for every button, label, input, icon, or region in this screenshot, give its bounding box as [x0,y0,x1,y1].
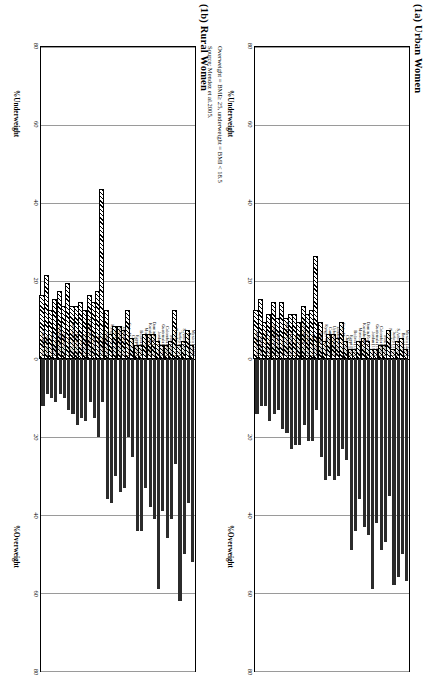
overweight-bar-fill [260,359,263,406]
bar-row: Guatemala [1650] [375,47,379,671]
overweight-bar-fill [311,359,314,441]
bar-row: Madagascar [250] [272,47,276,671]
overweight-bar-fill [324,359,327,480]
overweight-bar-fill [285,359,288,433]
overweight-bar-fill [358,359,361,499]
bar-row: Kyrgyz Rep [590] [323,47,327,671]
overweight-bar-fill [281,359,284,429]
overweight-bar-fill [298,359,301,445]
overweight-bar-fill [153,359,156,519]
overweight-bar-fill [119,359,122,492]
overweight-bar [114,359,118,476]
bar-row: Uzbekistan [630] [332,47,336,671]
bar-row: Nigeria [290] [75,47,79,671]
overweight-bar-fill [161,359,164,511]
bar-row: Turkey [3160] [392,47,396,671]
overweight-bar-fill [307,359,310,441]
overweight-bar-fill [268,359,271,421]
overweight-bar [362,359,366,527]
overweight-bar [71,359,75,414]
bar-row: Benin [350] [293,47,297,671]
bar-row: Zambia [360] [306,47,310,671]
bar-row: Egypt [990] [349,47,353,671]
overweight-bar-fill [54,359,57,402]
overweight-bar-fill [76,359,79,425]
overweight-bar [323,359,327,480]
overweight-bar-fill [157,359,160,589]
overweight-bar [272,359,276,414]
overweight-bar-fill [341,359,344,449]
bar-row: Peru [2060] [169,47,173,671]
bar-row: S.Africa [3510] [396,47,400,671]
overweight-bar [178,359,182,601]
overweight-bar-fill [97,359,100,437]
overweight-bar-fill [144,359,147,488]
overweight-bar-fill [67,359,70,410]
x-tick-label: 40 [33,512,40,519]
x-tick-label: 0 [33,357,40,360]
overweight-bar-fill [371,359,374,589]
overweight-bar-fill [63,359,66,398]
bar-row: Benin [350] [79,47,83,671]
bar-row: Niger [200] [45,47,49,671]
bar-row: S.Africa [3510] [182,47,186,671]
overweight-bar [263,359,267,406]
overweight-bar [319,359,323,457]
overweight-bar [353,359,357,531]
overweight-bar [259,359,263,406]
bar-row: Burkina Faso [290] [71,47,75,671]
bar-row: Egypt [990] [135,47,139,671]
footnote-definition: Overweight = BMI≥ 25, underweight = BMI … [216,46,224,183]
bar-row: Peru [2060] [383,47,387,671]
bar-row: Cameroon [610] [328,47,332,671]
overweight-bar [156,359,160,589]
bar-rows: Mexico [4440]Brazil [4320]S.Africa [3510… [41,47,195,671]
overweight-bar [358,359,362,499]
overweight-bar-fill [255,359,258,414]
overweight-bar [370,359,374,589]
overweight-bar [392,359,396,585]
overweight-bar-fill [375,359,378,523]
overweight-bar-fill [294,359,297,445]
overweight-bar-fill [149,359,152,507]
bar-row: Zambia [360] [92,47,96,671]
x-tick-label: 20 [247,434,254,441]
bar-row: Bolivia [1000] [139,47,143,671]
bar-row: Domin.Rep. [1570] [152,47,156,671]
bar-row: Brazil [4320] [400,47,404,671]
overweight-bar [161,359,165,511]
overweight-bar-fill [131,359,134,457]
x-tick-label: 40 [247,199,254,206]
bar-row: Cote d'Ivoire [660] [341,47,345,671]
overweight-bar [383,359,387,542]
x-tick-label: 60 [33,121,40,128]
overweight-bar-fill [123,359,126,488]
overweight-bar [276,359,280,410]
overweight-bar [345,359,349,460]
x-axis-ticks: 80604020020406080 [240,46,254,672]
x-tick-label: 40 [33,199,40,206]
overweight-bar-fill [140,359,143,531]
panel-title: (1b) Rural Women [199,4,210,91]
panel-rural: (1b) Rural WomenMexico [4440]Brazil [432… [0,0,214,688]
panel-urban: (1a) Urban WomenMexico [4440]Brazil [432… [214,0,428,688]
overweight-bar [135,359,139,531]
x-tick-label: 40 [247,512,254,519]
overweight-bar [101,359,105,402]
overweight-bar [375,359,379,523]
bar-row: C.African Rep. [360] [88,47,92,671]
overweight-bar [97,359,101,437]
overweight-bar-fill [84,359,87,421]
bar-row: Kazakhstan [1290] [148,47,152,671]
x-tick-label: 80 [33,43,40,50]
x-tick-label: 20 [33,434,40,441]
bar-row: Brazil [4320] [186,47,190,671]
overweight-bar-fill [101,359,104,402]
x-tick-label: 80 [247,669,254,676]
overweight-bar-fill [328,359,331,476]
overweight-bar [298,359,302,445]
bar-row: Mali [240] [54,47,58,671]
overweight-bar [88,359,92,402]
bar-row: Bolivia [1000] [353,47,357,671]
x-tick-label: 80 [33,669,40,676]
